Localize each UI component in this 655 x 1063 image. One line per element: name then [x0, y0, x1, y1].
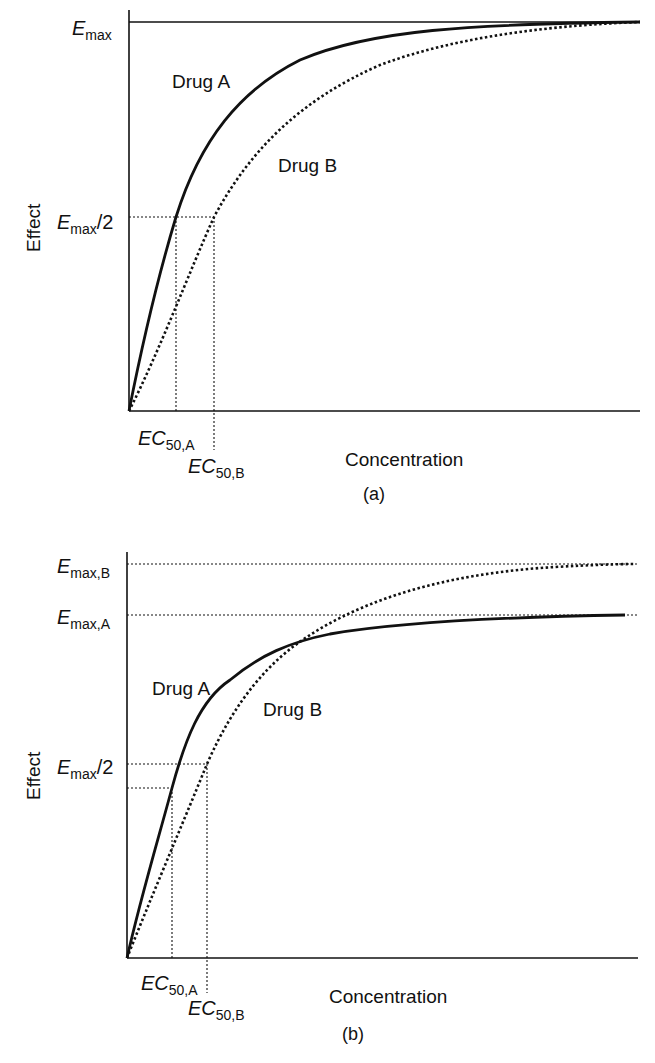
drug-b-label: Drug B [263, 699, 322, 720]
drug-b-label: Drug B [278, 155, 337, 176]
y-tick-emax-a: Emax,A [57, 606, 111, 632]
drug-a-label: Drug A [172, 71, 230, 92]
y-tick-emax-b: Emax,B [57, 555, 110, 581]
figure: Emax Emax/2 EC50,A EC50,B Drug A Drug B … [0, 0, 655, 1063]
panel-caption: (b) [342, 1024, 364, 1044]
panel-b: Emax,B Emax,A Emax/2 EC50,A EC50,B Drug … [23, 552, 638, 1044]
y-axis-title: Effect [23, 203, 44, 252]
y-tick-emax: Emax [72, 17, 112, 43]
x-tick-ec50b: EC50,B [188, 455, 245, 481]
x-tick-ec50a: EC50,A [138, 427, 195, 453]
panel-a: Emax Emax/2 EC50,A EC50,B Drug A Drug B … [23, 10, 640, 504]
drug-a-label: Drug A [152, 678, 210, 699]
x-tick-ec50b: EC50,B [188, 997, 245, 1023]
panel-caption: (a) [363, 484, 385, 504]
x-tick-ec50a: EC50,A [141, 972, 198, 998]
y-tick-half-emax: Emax/2 [57, 211, 113, 237]
x-axis-title: Concentration [329, 986, 447, 1007]
y-tick-half-emax: Emax/2 [57, 756, 113, 782]
y-axis-title: Effect [23, 751, 44, 800]
drug-a-curve [127, 615, 625, 958]
drug-b-curve [127, 564, 635, 958]
x-axis-title: Concentration [345, 449, 463, 470]
